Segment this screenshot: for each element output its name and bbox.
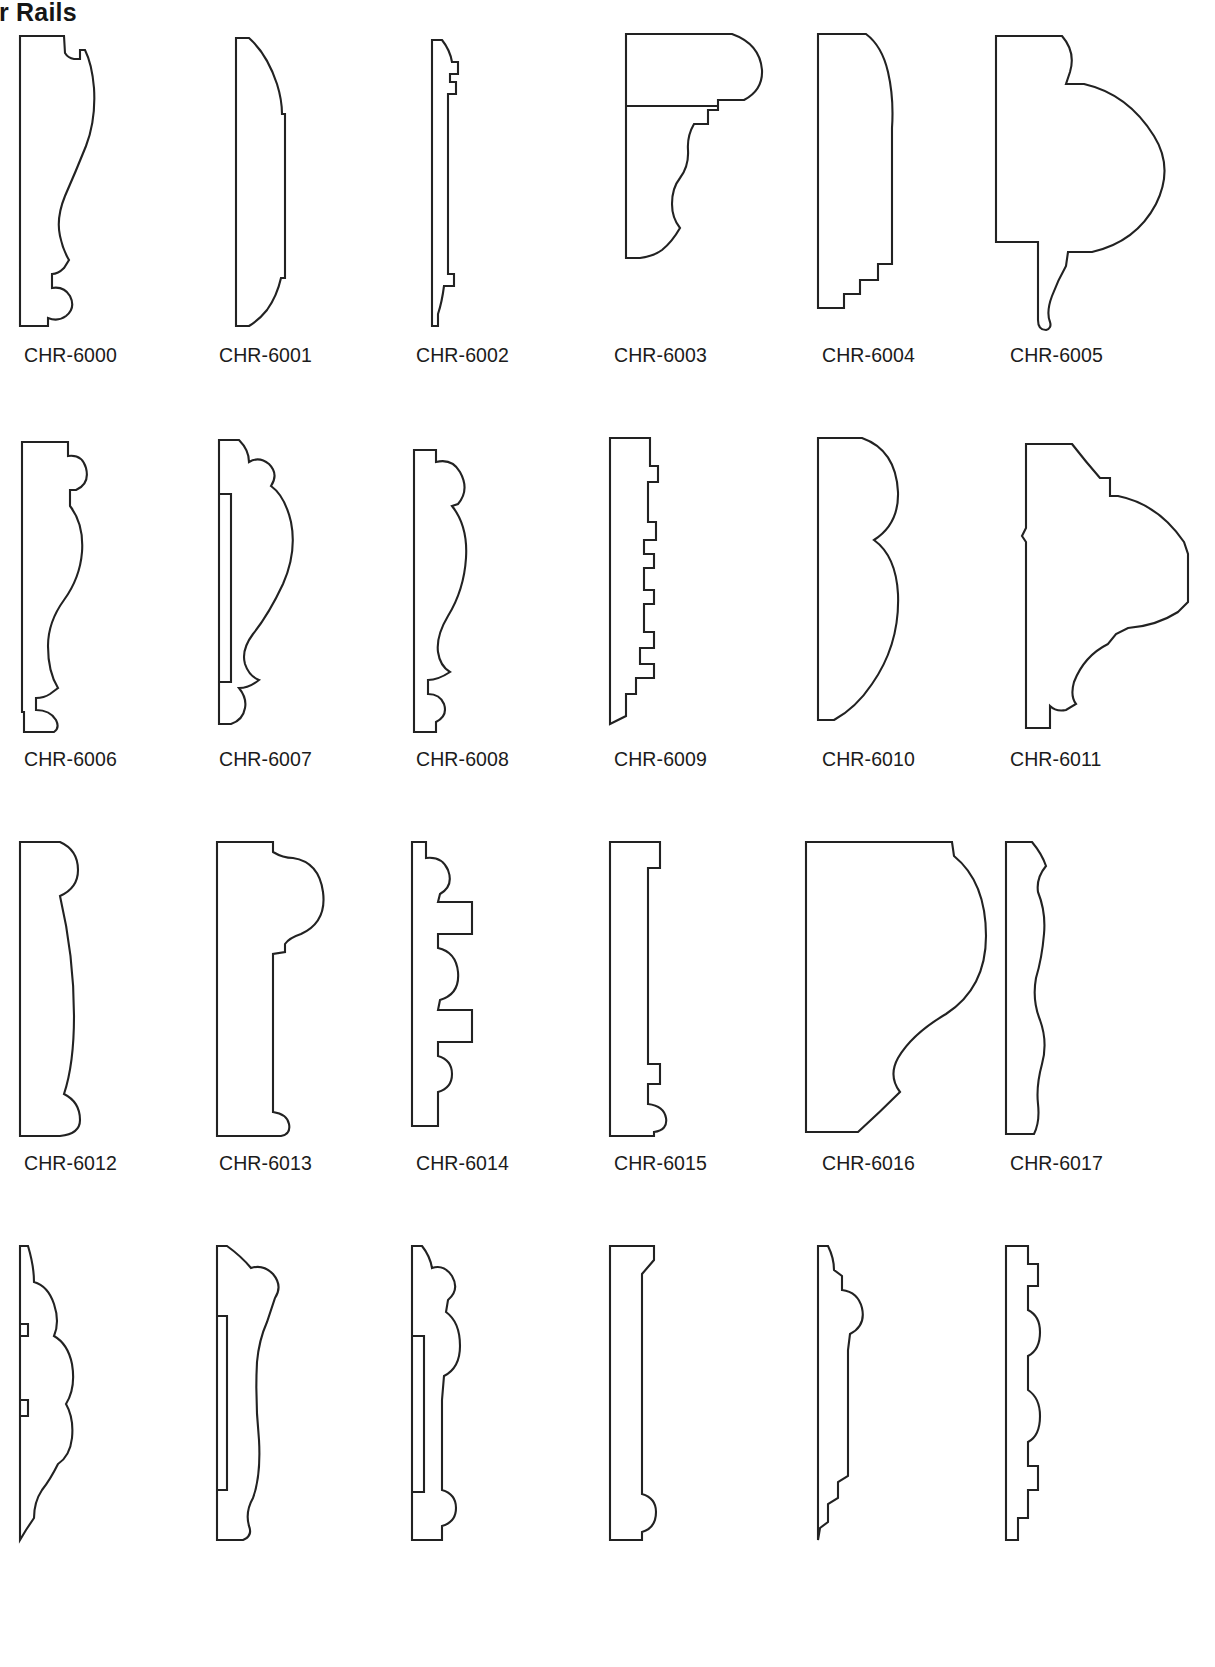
profile-outline	[20, 36, 94, 326]
profile-cell-row4-5[interactable]	[800, 1240, 1000, 1644]
profile-cell-row4-1[interactable]	[2, 1240, 202, 1644]
profile-cell-row4-2[interactable]	[197, 1240, 397, 1644]
profile-outline	[414, 450, 466, 732]
profile-outline	[610, 1246, 656, 1540]
profile-code-label: CHR-6003	[592, 344, 814, 367]
profile-code-label: CHR-6007	[197, 748, 419, 771]
profile-figure	[394, 836, 594, 1136]
profile-cell-row4-6[interactable]	[988, 1240, 1188, 1644]
profile-outline	[806, 842, 986, 1132]
profile-figure	[800, 836, 1000, 1136]
profile-code-label: CHR-6005	[988, 344, 1210, 367]
profile-code-label: CHR-6011	[988, 748, 1210, 771]
profile-figure	[2, 1240, 202, 1540]
profile-figure	[197, 28, 397, 328]
profile-cell-row4-4[interactable]	[592, 1240, 792, 1644]
profile-figure	[988, 836, 1188, 1136]
page-title: Chair Rails	[0, 0, 77, 27]
profile-cell-chr-6002[interactable]: CHR-6002	[394, 28, 594, 432]
profile-figure	[592, 836, 792, 1136]
profile-code-label: CHR-6002	[394, 344, 616, 367]
profile-cell-chr-6008[interactable]: CHR-6008	[394, 432, 594, 836]
profile-figure	[592, 28, 792, 328]
profile-cell-chr-6001[interactable]: CHR-6001	[197, 28, 397, 432]
profile-figure	[592, 432, 792, 732]
profile-cell-chr-6011[interactable]: CHR-6011	[988, 432, 1188, 836]
profile-outline	[432, 40, 458, 326]
profile-figure	[394, 432, 594, 732]
profile-figure	[800, 1240, 1000, 1540]
profile-figure	[394, 28, 594, 328]
profile-figure	[800, 28, 1000, 328]
profile-cell-chr-6013[interactable]: CHR-6013	[197, 836, 397, 1240]
profile-cell-chr-6000[interactable]: CHR-6000	[2, 28, 202, 432]
profile-cell-chr-6014[interactable]: CHR-6014	[394, 836, 594, 1240]
profile-outline	[1006, 1246, 1040, 1540]
profile-code-label: CHR-6017	[988, 1152, 1210, 1175]
profile-outline	[818, 1246, 863, 1540]
profile-outline	[412, 1246, 460, 1540]
profile-cell-chr-6007[interactable]: CHR-6007	[197, 432, 397, 836]
profile-outline	[818, 34, 893, 308]
profile-outline	[818, 438, 898, 720]
profile-figure	[988, 1240, 1188, 1540]
profile-cell-chr-6009[interactable]: CHR-6009	[592, 432, 792, 836]
profile-figure	[2, 432, 202, 732]
profile-outline	[20, 1246, 73, 1540]
profile-row: CHR-6006 CHR-6007 CHR-6008	[0, 432, 1215, 836]
profile-outline	[219, 440, 293, 724]
profile-cell-chr-6006[interactable]: CHR-6006	[2, 432, 202, 836]
profile-code-label: CHR-6014	[394, 1152, 616, 1175]
profile-code-label: CHR-6013	[197, 1152, 419, 1175]
catalog-page: Chair Rails CHR-6000 CHR-6	[0, 0, 1215, 1667]
profile-cell-chr-6010[interactable]: CHR-6010	[800, 432, 1000, 836]
profile-outline	[610, 438, 658, 724]
profile-row: CHR-6012 CHR-6013 CHR-6014	[0, 836, 1215, 1240]
profile-figure	[988, 432, 1188, 732]
profile-code-label: CHR-6001	[197, 344, 419, 367]
profile-outline	[22, 442, 87, 732]
profile-outline	[626, 34, 762, 258]
profile-code-label: CHR-6009	[592, 748, 814, 771]
profile-cell-chr-6017[interactable]: CHR-6017	[988, 836, 1188, 1240]
profile-figure	[197, 836, 397, 1136]
profile-code-label: CHR-6000	[2, 344, 224, 367]
profile-figure	[197, 432, 397, 732]
profile-figure	[394, 1240, 594, 1540]
profile-outline	[217, 842, 324, 1136]
profile-cell-chr-6005[interactable]: CHR-6005	[988, 28, 1188, 432]
profile-cell-row4-3[interactable]	[394, 1240, 594, 1644]
profile-figure	[197, 1240, 397, 1540]
profile-cell-chr-6016[interactable]: CHR-6016	[800, 836, 1000, 1240]
profile-outline	[996, 36, 1165, 330]
profile-outline	[236, 38, 285, 326]
profile-cell-chr-6004[interactable]: CHR-6004	[800, 28, 1000, 432]
profile-figure	[2, 28, 202, 328]
profile-row: CHR-6000 CHR-6001 CHR-6002	[0, 28, 1215, 432]
profile-figure	[2, 836, 202, 1136]
profile-figure	[800, 432, 1000, 732]
profile-code-label: CHR-6015	[592, 1152, 814, 1175]
profile-grid: CHR-6000 CHR-6001 CHR-6002	[0, 28, 1215, 1644]
profile-outline	[1006, 842, 1046, 1134]
profile-outline	[610, 842, 666, 1136]
profile-cell-chr-6003[interactable]: CHR-6003	[592, 28, 792, 432]
profile-figure	[988, 28, 1188, 328]
profile-code-label: CHR-6008	[394, 748, 616, 771]
profile-figure	[592, 1240, 792, 1540]
profile-cell-chr-6012[interactable]: CHR-6012	[2, 836, 202, 1240]
profile-code-label: CHR-6012	[2, 1152, 224, 1175]
profile-outline	[1022, 444, 1188, 728]
profile-cell-chr-6015[interactable]: CHR-6015	[592, 836, 792, 1240]
profile-outline	[217, 1246, 279, 1540]
profile-row	[0, 1240, 1215, 1644]
profile-outline	[412, 842, 472, 1126]
profile-code-label: CHR-6006	[2, 748, 224, 771]
profile-outline	[20, 842, 80, 1136]
